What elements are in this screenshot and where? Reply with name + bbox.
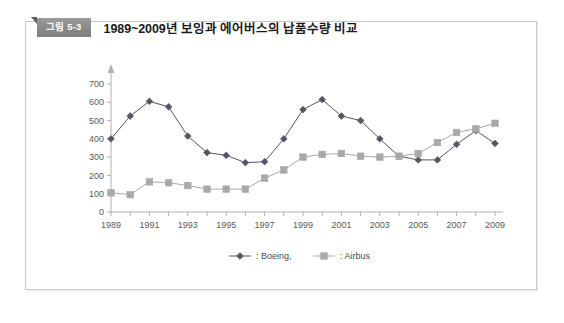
x-tick-label: 1989 <box>101 220 121 230</box>
data-point-square <box>473 126 480 133</box>
legend-label: : Boeing, <box>256 251 292 261</box>
badge-fold-corner <box>31 17 37 24</box>
data-point-diamond <box>242 159 249 166</box>
axis-path <box>111 72 503 212</box>
data-point-square <box>127 191 134 198</box>
y-axis-arrow-icon <box>108 64 115 73</box>
data-point-square <box>108 190 115 197</box>
data-series-group <box>108 96 499 198</box>
x-tick-label: 2009 <box>485 220 505 230</box>
y-tick-label: 100 <box>89 189 104 199</box>
data-point-diamond <box>223 152 230 159</box>
y-tick-label: 300 <box>89 152 104 162</box>
data-point-square <box>321 253 328 260</box>
y-tick-label: 500 <box>89 116 104 126</box>
data-point-square <box>146 179 153 186</box>
y-tick-label: 600 <box>89 97 104 107</box>
data-point-square <box>377 154 384 161</box>
x-tick-label: 2005 <box>408 220 428 230</box>
data-point-square <box>338 150 345 157</box>
legend-item: : Boeing, <box>229 251 292 261</box>
data-point-square <box>319 151 326 158</box>
data-point-square <box>434 139 441 146</box>
figure-header: 그림 5-3 1989~2009년 보잉과 에어버스의 납품수량 비교 <box>25 14 537 40</box>
y-tick-label: 700 <box>89 79 104 89</box>
data-point-diamond <box>492 140 499 147</box>
data-point-diamond <box>237 253 244 260</box>
legend-item: : Airbus <box>313 251 371 261</box>
x-tick-label: 1995 <box>216 220 236 230</box>
x-axis-ticks <box>111 212 495 216</box>
x-tick-label: 2003 <box>370 220 390 230</box>
y-tick-label: 200 <box>89 171 104 181</box>
data-point-square <box>415 150 422 157</box>
data-point-square <box>396 153 403 160</box>
x-tick-label: 1993 <box>178 220 198 230</box>
x-tick-label: 2001 <box>331 220 351 230</box>
data-point-square <box>281 167 288 174</box>
y-axis-tick-labels: 0100200300400500600700 <box>89 79 104 217</box>
figure-number-label: 그림 5-3 <box>46 22 82 32</box>
x-tick-label: 2007 <box>447 220 467 230</box>
y-tick-label: 0 <box>99 207 104 217</box>
figure-title: 1989~2009년 보잉과 에어버스의 납품수량 비교 <box>104 18 358 37</box>
data-point-diamond <box>415 156 422 163</box>
data-point-square <box>453 129 460 136</box>
data-point-square <box>185 182 192 189</box>
chart-legend: : Boeing,: Airbus <box>229 251 371 261</box>
x-tick-label: 1997 <box>255 220 275 230</box>
line-chart: 0100200300400500600700 19891991199319951… <box>25 45 537 290</box>
axis-lines <box>108 64 503 212</box>
x-axis-tick-labels: 1989199119931995199719992001200320052007… <box>101 220 505 230</box>
legend-label: : Airbus <box>340 251 371 261</box>
data-point-diamond <box>300 106 307 113</box>
y-tick-label: 400 <box>89 134 104 144</box>
data-point-square <box>242 186 249 193</box>
data-point-square <box>223 186 230 193</box>
data-point-square <box>165 179 172 186</box>
figure-number-badge: 그림 5-3 <box>37 18 91 37</box>
x-tick-label: 1999 <box>293 220 313 230</box>
data-point-square <box>261 175 268 182</box>
data-point-square <box>300 154 307 161</box>
chart-area: 0100200300400500600700 19891991199319951… <box>25 45 537 290</box>
data-point-diamond <box>165 103 172 110</box>
data-point-square <box>204 186 211 193</box>
x-tick-label: 1991 <box>139 220 159 230</box>
data-point-square <box>357 153 364 160</box>
data-point-square <box>492 120 499 127</box>
